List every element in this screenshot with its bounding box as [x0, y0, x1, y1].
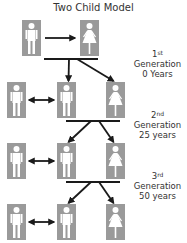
child-arrow	[69, 182, 92, 203]
icon-head	[64, 146, 70, 152]
icon-leg	[18, 225, 21, 238]
icon-leg	[115, 166, 117, 177]
icon-leg	[115, 105, 117, 116]
icon-arm	[21, 92, 23, 101]
male-icon	[57, 143, 76, 179]
icon-torso	[63, 153, 71, 164]
icon-leg	[63, 225, 66, 238]
female-icon	[106, 82, 125, 118]
icon-leg	[63, 103, 66, 116]
icon-arm	[26, 30, 28, 39]
icon-leg	[13, 225, 16, 238]
icon-torso	[28, 30, 36, 41]
icon-arm	[71, 153, 73, 162]
icon-torso	[63, 92, 71, 103]
icon-torso	[13, 214, 21, 225]
icon-leg	[18, 103, 21, 116]
icon-arm	[61, 92, 63, 101]
icon-arm	[71, 214, 73, 223]
icon-torso	[13, 92, 21, 103]
icon-head	[14, 146, 20, 152]
male-icon	[22, 20, 41, 56]
male-icon	[7, 143, 26, 179]
icon-leg	[89, 43, 91, 54]
icon-leg	[115, 227, 117, 238]
icon-arm	[71, 92, 73, 101]
icon-head	[64, 85, 70, 91]
child-arrow	[99, 121, 114, 142]
icon-head	[87, 23, 93, 29]
icon-leg	[68, 164, 71, 177]
icon-head	[14, 85, 20, 91]
icon-head	[64, 207, 70, 213]
icon-head	[14, 207, 20, 213]
female-icon	[80, 20, 99, 56]
child-arrow	[99, 182, 114, 203]
icon-arm	[61, 214, 63, 223]
child-arrow	[69, 59, 70, 81]
child-arrow	[69, 121, 92, 142]
icon-torso	[63, 214, 71, 225]
icon-leg	[28, 41, 31, 54]
icon-torso	[13, 153, 21, 164]
female-icon	[106, 143, 125, 179]
icon-leg	[13, 103, 16, 116]
icon-arm	[11, 153, 13, 162]
icon-leg	[33, 41, 36, 54]
male-icon	[57, 82, 76, 118]
icon-leg	[13, 164, 16, 177]
icon-arm	[21, 153, 23, 162]
icon-leg	[68, 103, 71, 116]
icon-leg	[68, 225, 71, 238]
male-icon	[7, 82, 26, 118]
icon-head	[29, 23, 35, 29]
icon-leg	[63, 164, 66, 177]
family-tree-diagram	[0, 0, 187, 243]
male-icon	[57, 204, 76, 240]
female-icon	[106, 204, 125, 240]
icon-head	[113, 85, 119, 91]
icon-head	[113, 207, 119, 213]
icon-arm	[21, 214, 23, 223]
icon-leg	[18, 164, 21, 177]
icon-arm	[61, 153, 63, 162]
icon-head	[113, 146, 119, 152]
icon-arm	[36, 30, 38, 39]
icon-arm	[11, 92, 13, 101]
male-icon	[7, 204, 26, 240]
child-arrow	[77, 59, 114, 81]
icon-arm	[11, 214, 13, 223]
